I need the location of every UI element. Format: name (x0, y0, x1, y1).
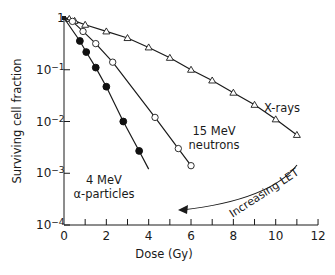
origin-marker (62, 16, 66, 20)
annotation-text: Increasing LET (227, 166, 301, 221)
open-circle-marker (93, 40, 99, 46)
open-circle-marker (80, 28, 86, 34)
filled-circle-marker (136, 148, 143, 155)
triangle-marker (230, 89, 237, 95)
series-alpha-particles (64, 18, 149, 169)
series-x-rays (64, 15, 300, 137)
y-tick-label: 10−2 (36, 114, 65, 129)
label-alpha-particles: 4 MeVα-particles (73, 173, 134, 201)
open-circle-marker (152, 114, 158, 120)
filled-circle-marker (120, 118, 127, 125)
filled-circle-marker (103, 83, 110, 90)
y-axis-label: Surviving cell fraction (10, 58, 24, 183)
increasing-let-annotation: Increasing LET (178, 165, 301, 220)
triangle-marker (166, 54, 173, 60)
arrow-head-icon (178, 205, 188, 214)
data-series (62, 15, 300, 169)
filled-circle-marker (92, 64, 99, 71)
survival-curve-chart: 110−110−210−310−4 024681012 Dose (Gy) Su… (0, 0, 335, 275)
x-tick-label: 4 (145, 229, 153, 243)
open-circle-marker (175, 145, 181, 151)
y-tick-label: 10−3 (36, 165, 65, 180)
triangle-marker (209, 77, 216, 83)
open-circle-marker (188, 162, 194, 168)
label-neutrons: 15 MeVneutrons (189, 124, 240, 152)
triangle-marker (188, 66, 195, 72)
x-tick-labels: 024681012 (60, 229, 326, 243)
x-axis-label: Dose (Gy) (135, 247, 192, 261)
triangle-marker (251, 101, 258, 107)
label-x-rays: X-rays (264, 101, 300, 115)
x-tick-label: 0 (60, 229, 68, 243)
open-circle-marker (69, 18, 75, 24)
x-tick-label: 2 (103, 229, 111, 243)
y-tick-label: 10−1 (36, 62, 65, 77)
filled-circle-marker (76, 38, 83, 45)
filled-circle-marker (83, 49, 90, 56)
y-tick-labels: 110−110−210−310−4 (36, 11, 65, 232)
x-tick-label: 10 (268, 229, 283, 243)
x-tick-label: 8 (230, 229, 238, 243)
triangle-marker (293, 131, 300, 137)
triangle-marker (272, 116, 279, 122)
x-tick-label: 12 (310, 229, 325, 243)
open-circle-marker (109, 59, 115, 65)
x-tick-label: 6 (187, 229, 195, 243)
